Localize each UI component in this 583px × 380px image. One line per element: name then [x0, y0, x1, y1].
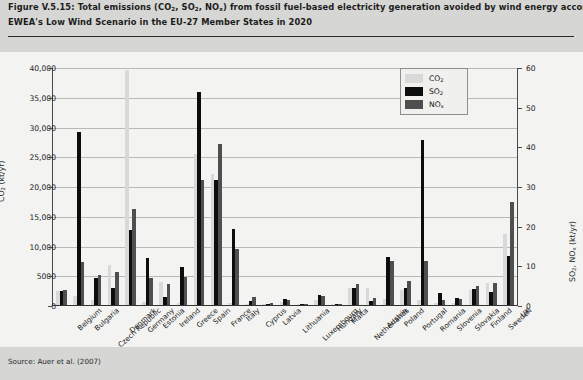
- bar-nox: [235, 249, 239, 305]
- bar-nox: [493, 283, 497, 305]
- bar-nox: [218, 144, 222, 305]
- bar-group: [242, 68, 259, 305]
- bar-nox: [390, 261, 394, 305]
- y-tick-left: 30,000: [29, 124, 56, 133]
- bar-group: [259, 68, 276, 305]
- legend-item-so2: SO2: [405, 85, 463, 98]
- bar-nox: [63, 290, 67, 305]
- bar-group: [105, 68, 122, 305]
- y-axis-right-label: SO2, NOx (kt/yr): [568, 221, 577, 282]
- caption-line-1: Figure V.5.15: Total emissions (CO2, SO2…: [8, 2, 578, 12]
- bar-nox: [304, 304, 308, 305]
- x-axis-labels: BelgiumBulgariaCzech RepublicDenmarkGerm…: [52, 306, 518, 366]
- caption-line-2: EWEA's Low Wind Scenario in the EU-27 Me…: [8, 17, 578, 27]
- y-tick-mark-left: [48, 187, 52, 188]
- y-tick-left: 20,000: [29, 183, 56, 192]
- y-tick-left: 15,000: [29, 213, 56, 222]
- bar-nox: [424, 261, 428, 305]
- legend-label-co2: CO2: [429, 74, 444, 83]
- bar-group: [311, 68, 328, 305]
- bar-group: [380, 68, 397, 305]
- bar-nox: [407, 281, 411, 305]
- y-tick-mark-left: [48, 217, 52, 218]
- bar-nox: [476, 286, 480, 305]
- y-tick-right: 10: [526, 262, 536, 271]
- bar-group: [87, 68, 104, 305]
- bar-group: [294, 68, 311, 305]
- y-tick-right: 60: [526, 64, 536, 73]
- y-tick-mark-right: [518, 68, 522, 69]
- y-tick-left: 25,000: [29, 153, 56, 162]
- bar-group: [70, 68, 87, 305]
- chart-legend: CO2 SO2 NOx: [400, 68, 468, 115]
- bar-nox: [252, 297, 256, 305]
- bar-group: [362, 68, 379, 305]
- bar-group: [208, 68, 225, 305]
- bar-group: [276, 68, 293, 305]
- bar-nox: [98, 275, 102, 305]
- y-tick-mark-right: [518, 227, 522, 228]
- source-note: Source: Auer et al. (2007): [8, 357, 101, 366]
- bar-nox: [287, 300, 291, 305]
- y-tick-mark-left: [48, 68, 52, 69]
- y-tick-left: 35,000: [29, 94, 56, 103]
- bar-group: [225, 68, 242, 305]
- y-tick-mark-left: [48, 276, 52, 277]
- chart-figure: CO2 (kt/yr) SO2, NOx (kt/yr) 0500010,000…: [0, 52, 583, 347]
- y-axis-left-label: CO2 (kt/yr): [0, 160, 6, 202]
- bar-group: [122, 68, 139, 305]
- legend-item-co2: CO2: [405, 72, 463, 85]
- legend-swatch-co2: [405, 74, 423, 83]
- legend-item-nox: NOx: [405, 98, 463, 111]
- bar-nox: [510, 202, 514, 305]
- y-tick-mark-right: [518, 306, 522, 307]
- figure-caption: Figure V.5.15: Total emissions (CO2, SO2…: [0, 0, 583, 52]
- bar-group: [328, 68, 345, 305]
- y-tick-right: 30: [526, 183, 536, 192]
- bar-nox: [115, 272, 119, 305]
- y-tick-left: 40,000: [29, 64, 56, 73]
- y-tick-mark-right: [518, 266, 522, 267]
- y-tick-left: 5000: [37, 272, 56, 281]
- bar-nox: [149, 278, 153, 305]
- bar-nox: [270, 303, 274, 305]
- bar-nox: [338, 304, 342, 305]
- y-tick-left: 10,000: [29, 243, 56, 252]
- y-tick-mark-left: [48, 247, 52, 248]
- bar-group: [500, 68, 517, 305]
- bar-nox: [81, 262, 85, 305]
- bar-group: [156, 68, 173, 305]
- bar-nox: [373, 298, 377, 305]
- y-tick-mark-right: [518, 147, 522, 148]
- y-tick-right: 50: [526, 104, 536, 113]
- y-tick-mark-left: [48, 128, 52, 129]
- bar-nox: [459, 299, 463, 305]
- bar-nox: [167, 284, 171, 305]
- bar-group: [345, 68, 362, 305]
- bar-nox: [321, 296, 325, 305]
- legend-swatch-nox: [405, 100, 423, 109]
- bar-nox: [442, 300, 446, 305]
- y-tick-right: 20: [526, 223, 536, 232]
- legend-label-so2: SO2: [429, 87, 443, 96]
- bar-group: [483, 68, 500, 305]
- bar-group: [191, 68, 208, 305]
- y-tick-mark-left: [48, 157, 52, 158]
- bar-nox: [184, 277, 188, 305]
- y-tick-mark-right: [518, 187, 522, 188]
- bar-nox: [132, 209, 136, 305]
- legend-swatch-so2: [405, 87, 423, 96]
- bar-group: [139, 68, 156, 305]
- bar-group: [466, 68, 483, 305]
- bar-group: [173, 68, 190, 305]
- y-tick-mark-left: [48, 98, 52, 99]
- legend-label-nox: NOx: [429, 100, 444, 109]
- y-tick-right: 40: [526, 143, 536, 152]
- bar-nox: [201, 180, 205, 305]
- bar-nox: [356, 284, 360, 305]
- caption-divider: [8, 36, 574, 37]
- y-tick-mark-right: [518, 108, 522, 109]
